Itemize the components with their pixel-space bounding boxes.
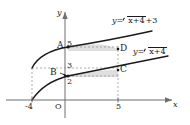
y-axis-label: y [57, 9, 62, 17]
curve-lower [32, 56, 168, 100]
x-axis-arrow [165, 97, 172, 102]
point-label-A: A [57, 41, 64, 50]
y-tick-label-5: 5 [67, 40, 72, 48]
equation-lower-radicand: x+4 [148, 47, 166, 56]
equation-lower-lhs: y= [133, 47, 144, 56]
point-label-C: C [120, 65, 127, 74]
point-label-D: D [120, 44, 127, 53]
y-tick-label-2: 2 [67, 78, 72, 86]
origin-label: O [55, 103, 62, 111]
sqrt-icon: x+4 [144, 47, 166, 56]
y-tick-label-3: 3 [67, 62, 72, 70]
x-axis-label: x [173, 101, 178, 109]
x-tick-label-neg4: -4 [25, 103, 33, 111]
x-tick-label-5: 5 [116, 103, 121, 111]
equation-label-lower: y=x+4 [133, 47, 167, 56]
equation-upper-lhs: y= [112, 16, 123, 25]
equation-label-upper: y=x+4+3 [112, 16, 157, 25]
point-label-B: B [50, 68, 57, 77]
y-axis-arrow [62, 12, 67, 19]
sqrt-icon: x+4 [123, 16, 145, 25]
math-figure: y=x+4+3 y=x+4 A B C D 5 3 2 -4 5 O y x [0, 0, 190, 125]
point-C-marker [117, 69, 120, 72]
equation-upper-radicand: x+4 [127, 16, 145, 25]
equation-upper-tail: +3 [146, 16, 158, 25]
point-D-marker [117, 48, 120, 51]
